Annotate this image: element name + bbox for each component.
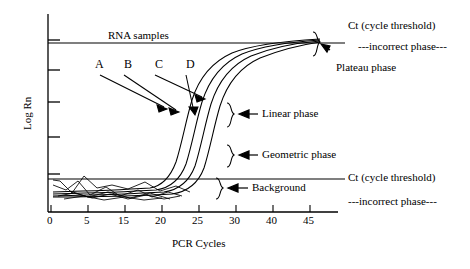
- series-label-d: D: [186, 58, 195, 70]
- x-axis: [48, 205, 338, 212]
- plateau-phase-label: Plateau phase: [336, 62, 396, 73]
- series-label-a: A: [95, 58, 104, 70]
- x-tick-label-0: 0: [47, 215, 53, 226]
- arrow-plateau: [321, 44, 330, 52]
- ct-threshold-bottom-label: Ct (cycle threshold): [348, 172, 435, 183]
- background-label: Background: [252, 182, 306, 193]
- geometric-phase-label: Geometric phase: [262, 149, 336, 160]
- x-tick-label-4: 25: [192, 215, 203, 226]
- brace-geometric: [227, 145, 234, 167]
- x-tick-label-3: 20: [155, 215, 166, 226]
- brace-linear: [227, 103, 234, 127]
- leader-c: [155, 75, 205, 102]
- arrow-geometric: [239, 151, 258, 159]
- leader-a: [100, 75, 167, 112]
- x-tick-label-2: 15: [118, 215, 129, 226]
- brace-background: [216, 178, 223, 199]
- x-tick-label-1: 5: [84, 215, 90, 226]
- linear-phase-label: Linear phase: [262, 108, 319, 119]
- series-label-c: C: [155, 58, 163, 70]
- x-tick-label-6: 40: [266, 215, 277, 226]
- y-axis: [48, 14, 60, 212]
- incorrect-phase-top-label: ---incorrect phase---: [358, 41, 447, 52]
- x-tick-label-7: 45: [303, 215, 314, 226]
- brace-plateau: [313, 32, 320, 56]
- arrow-background: [228, 184, 248, 192]
- rna-samples-label: RNA samples: [108, 30, 169, 41]
- leader-b: [124, 75, 179, 115]
- y-axis-title: Log Rn: [22, 97, 33, 130]
- pcr-amplification-plot: Log Rn PCR Cycles 0 5 15 20 25 30 40 45 …: [0, 0, 470, 269]
- series-label-b: B: [124, 58, 132, 70]
- x-tick-label-5: 30: [229, 215, 240, 226]
- incorrect-phase-bottom-label: ---incorrect phase---: [348, 196, 437, 207]
- ct-threshold-top-label: Ct (cycle threshold): [348, 20, 435, 31]
- arrow-linear: [239, 110, 258, 118]
- x-axis-title: PCR Cycles: [172, 238, 225, 249]
